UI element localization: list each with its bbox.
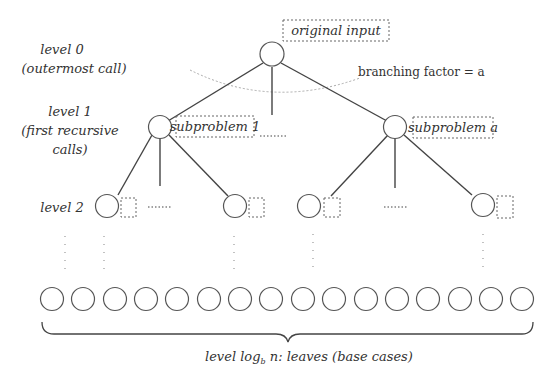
leaf-node — [104, 288, 127, 311]
level-2-node — [298, 195, 321, 218]
level-2-box — [121, 198, 136, 217]
leaf-node — [166, 288, 189, 311]
level-0-sublabel: (outermost call) — [21, 61, 126, 76]
leaf-node — [72, 288, 95, 311]
level-1-label: level 1 — [48, 104, 91, 119]
edge-root-sub1 — [168, 63, 263, 121]
level-2-box — [249, 198, 264, 217]
subproblem-a-node — [384, 116, 407, 139]
edge-sub1-child1 — [118, 135, 152, 195]
leaves-row — [41, 288, 534, 311]
leaf-node — [449, 288, 472, 311]
subproblem-1-label: subproblem 1 — [170, 119, 261, 134]
level-1-sublabel: (first recursive — [21, 123, 119, 138]
leaf-node — [41, 288, 64, 311]
level-2-box — [324, 198, 340, 217]
edge-suba-childk — [404, 135, 472, 195]
level-2-node — [224, 195, 247, 218]
subproblem-1-node — [149, 116, 172, 139]
leaves-label: level logb n: leaves (base cases) — [205, 349, 413, 366]
leaf-node — [292, 288, 315, 311]
level-1-sublabel-2: calls) — [52, 142, 87, 157]
edge-sub1-childk — [169, 135, 228, 196]
branching-arc — [190, 70, 360, 92]
level-2-label: level 2 — [40, 200, 83, 215]
recursion-tree-diagram: level 0 (outermost call) level 1 (first … — [0, 0, 558, 371]
root-node — [260, 42, 284, 66]
level-2-node — [96, 195, 119, 218]
leaf-node — [198, 288, 221, 311]
leaf-node — [355, 288, 378, 311]
leaf-node — [480, 288, 503, 311]
edge-suba-child1 — [331, 135, 388, 196]
leaf-node — [511, 288, 534, 311]
level-0-label: level 0 — [40, 42, 83, 57]
subproblem-a-label: subproblem a — [408, 120, 498, 135]
leaves-brace — [42, 322, 533, 342]
original-input-label: original input — [291, 23, 381, 38]
leaf-node — [229, 288, 252, 311]
leaf-node — [323, 288, 346, 311]
leaf-node — [417, 288, 440, 311]
branching-factor-label: branching factor = a — [358, 65, 485, 79]
leaf-node — [260, 288, 283, 311]
level-2-node — [472, 194, 495, 217]
leaf-node — [386, 288, 409, 311]
leaf-node — [135, 288, 158, 311]
level-2-box — [497, 196, 513, 218]
